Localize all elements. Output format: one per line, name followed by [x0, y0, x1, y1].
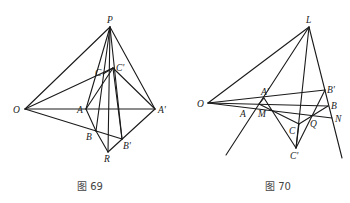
label-O: O — [197, 99, 204, 109]
label-A-prime: A' — [260, 87, 270, 97]
label-Q: Q — [310, 119, 317, 129]
label-O: O — [13, 105, 20, 115]
geometry-figures: P O A A' C C' B B' R 图 69 L O A' A M B' … — [0, 0, 350, 203]
caption-70: 图 70 — [265, 181, 291, 192]
label-B-prime: B' — [327, 85, 336, 95]
label-L: L — [305, 15, 311, 25]
label-A-prime: A' — [157, 105, 167, 115]
label-C: C — [95, 68, 102, 78]
label-A: A — [239, 109, 246, 119]
label-C: C — [289, 126, 296, 136]
label-R: R — [103, 154, 110, 164]
label-M: M — [257, 109, 267, 119]
figure-70: L O A' A M B' B N Q C C' 图 70 — [197, 15, 342, 192]
label-B: B — [86, 132, 92, 142]
label-C-prime: C' — [116, 63, 125, 73]
label-B: B — [331, 101, 337, 111]
label-A: A — [76, 105, 83, 115]
caption-69: 图 69 — [77, 181, 103, 192]
label-C-prime: C' — [290, 151, 299, 161]
figure-69: P O A A' C C' B B' R 图 69 — [13, 15, 167, 192]
label-P: P — [106, 15, 113, 25]
label-B-prime: B' — [123, 141, 132, 151]
label-N: N — [334, 114, 342, 124]
